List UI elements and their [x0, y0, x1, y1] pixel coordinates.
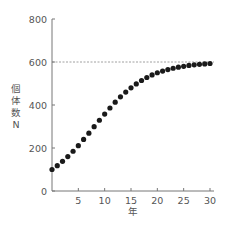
data-point: [192, 62, 197, 67]
logistic-growth-chart: 0200400600800 51015202530 年 個体数N: [0, 0, 230, 232]
data-point: [176, 65, 181, 70]
y-tick-label: 800: [29, 14, 47, 25]
x-tick-label: 15: [125, 195, 137, 206]
data-point: [128, 85, 133, 90]
data-point: [165, 67, 170, 72]
data-point: [155, 70, 160, 75]
y-axis-title-char: 数: [11, 107, 21, 118]
x-tick-label: 20: [151, 195, 163, 206]
data-point: [181, 64, 186, 69]
x-tick-label: 30: [204, 195, 216, 206]
x-axis-title: 年: [128, 206, 138, 217]
data-point: [81, 137, 86, 142]
data-points: [49, 61, 212, 172]
y-axis-title-char: 個: [11, 83, 21, 94]
data-point: [49, 167, 54, 172]
data-point: [207, 61, 212, 66]
data-point: [123, 90, 128, 95]
data-point: [171, 66, 176, 71]
data-point: [149, 72, 154, 77]
y-tick-label: 600: [29, 57, 47, 68]
data-point: [160, 68, 165, 73]
data-point: [202, 61, 207, 66]
data-point: [134, 81, 139, 86]
data-point: [92, 124, 97, 129]
data-point: [118, 94, 123, 99]
data-point: [76, 143, 81, 148]
data-point: [65, 154, 70, 159]
data-point: [107, 105, 112, 110]
x-tick-label: 10: [99, 195, 111, 206]
data-point: [55, 163, 60, 168]
data-point: [60, 159, 65, 164]
data-point: [139, 78, 144, 83]
y-tick-label: 400: [29, 100, 47, 111]
y-tick-label: 0: [41, 186, 47, 197]
x-tick-label: 5: [75, 195, 81, 206]
data-point: [144, 75, 149, 80]
data-point: [102, 111, 107, 116]
data-point: [113, 100, 118, 105]
data-point: [86, 131, 91, 136]
data-point: [70, 149, 75, 154]
x-tick-label: 25: [178, 195, 190, 206]
y-axis-title-char: N: [12, 119, 19, 130]
y-tick-label: 200: [29, 143, 47, 154]
y-axis-title-char: 体: [11, 95, 21, 106]
data-point: [97, 118, 102, 123]
data-point: [197, 62, 202, 67]
data-point: [186, 63, 191, 68]
y-axis-title: 個体数N: [11, 83, 21, 130]
